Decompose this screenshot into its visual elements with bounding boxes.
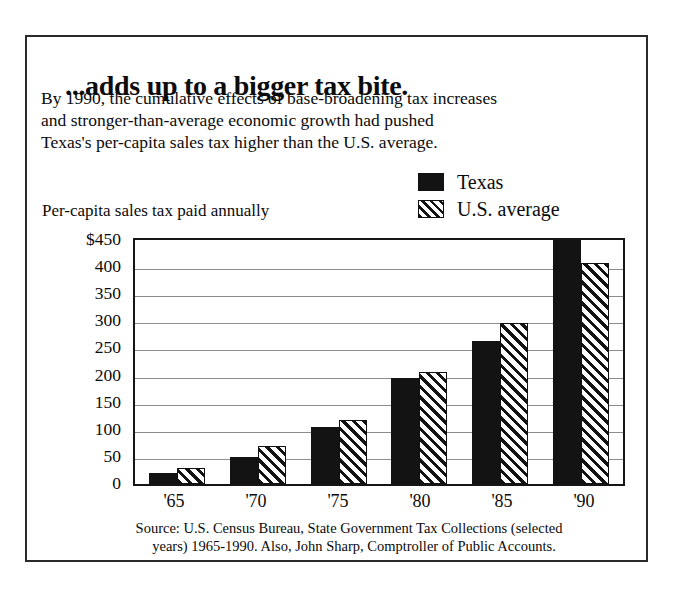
y-axis-tick-label: 50 — [104, 448, 122, 466]
x-axis-tick-label: '85 — [471, 491, 533, 512]
deck-line: By 1990, the cumulative effects of base-… — [41, 87, 641, 109]
deck-paragraph: By 1990, the cumulative effects of base-… — [41, 87, 641, 153]
x-axis-tick-label: '90 — [553, 491, 615, 512]
source-note: Source: U.S. Census Bureau, State Govern… — [99, 519, 599, 555]
legend-label: Texas — [457, 172, 503, 192]
bar-us-average — [339, 420, 367, 484]
bar-texas — [230, 457, 258, 484]
bar-group — [553, 240, 609, 484]
bar-us-average — [581, 263, 609, 484]
y-axis-tick-label: 0 — [112, 475, 121, 493]
y-axis-tick-label: $450 — [86, 231, 121, 249]
x-axis-tick-labels: '65'70'75'80'85'90 — [133, 491, 625, 512]
bar-texas — [553, 240, 581, 484]
legend-label: U.S. average — [457, 199, 560, 219]
bar-group — [149, 240, 205, 484]
deck-line: and stronger-than-average economic growt… — [41, 109, 641, 131]
y-axis-tick-labels: $450400350300250200150100500 — [61, 238, 127, 486]
plot-area — [133, 238, 625, 486]
bar-group — [311, 240, 367, 484]
y-axis-tick-label: 100 — [95, 421, 121, 439]
chart-legend: Texas U.S. average — [418, 168, 560, 222]
y-axis-caption: Per-capita sales tax paid annually — [42, 201, 269, 221]
bar-series-container — [135, 240, 623, 484]
x-axis-tick-label: '80 — [389, 491, 451, 512]
x-axis-tick-label: '65 — [143, 491, 205, 512]
y-axis-tick-label: 300 — [95, 313, 121, 331]
y-axis-tick-label: 350 — [95, 285, 121, 303]
deck-line: Texas's per-capita sales tax higher than… — [41, 131, 641, 153]
x-axis-tick-label: '75 — [307, 491, 369, 512]
bar-us-average — [419, 372, 447, 484]
y-axis-tick-label: 250 — [95, 340, 121, 358]
bar-group — [391, 240, 447, 484]
bar-group — [472, 240, 528, 484]
legend-item-texas: Texas — [418, 168, 560, 195]
bar-us-average — [258, 446, 286, 484]
bar-us-average — [500, 323, 528, 484]
y-axis-tick-label: 200 — [95, 367, 121, 385]
legend-swatch-hatch-icon — [418, 200, 444, 218]
legend-swatch-solid-icon — [418, 173, 444, 191]
bar-texas — [149, 473, 177, 484]
x-axis-tick-label: '70 — [225, 491, 287, 512]
bar-texas — [311, 427, 339, 484]
source-note-line: years) 1965-1990. Also, John Sharp, Comp… — [99, 537, 599, 555]
bar-texas — [391, 378, 419, 484]
source-note-line: Source: U.S. Census Bureau, State Govern… — [99, 519, 599, 537]
y-axis-tick-label: 150 — [95, 394, 121, 412]
y-axis-tick-label: 400 — [95, 258, 121, 276]
bar-us-average — [177, 468, 205, 484]
legend-item-us-average: U.S. average — [418, 195, 560, 222]
bar-texas — [472, 341, 500, 484]
figure-frame: ...adds up to a bigger tax bite. By 1990… — [25, 35, 648, 562]
bar-group — [230, 240, 286, 484]
